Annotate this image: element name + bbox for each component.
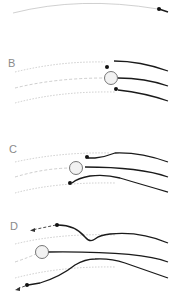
panel-a-diagram (0, 0, 174, 50)
trajectory-bottom (72, 175, 168, 192)
trajectory-bottom (118, 90, 168, 101)
arrowhead-top (30, 228, 35, 232)
panel-b-diagram (0, 55, 174, 135)
guide-line-middle (15, 253, 38, 262)
guide-line-bottom (15, 92, 115, 103)
panel-a (0, 0, 174, 50)
trajectory-middle (118, 78, 168, 86)
trajectory-bottom (28, 259, 168, 285)
panel-c-diagram (0, 140, 174, 210)
arrowhead-bottom (15, 287, 20, 291)
trajectory-middle (48, 252, 168, 262)
guide-arc (13, 3, 158, 13)
panel-d: D (0, 215, 174, 304)
guide-line-middle (15, 168, 72, 177)
particle-dot-bottom (68, 181, 72, 185)
particle-dot (157, 7, 161, 11)
guide-line-top (15, 62, 105, 72)
exit-arrow-top (32, 225, 56, 230)
particle-dot-top (85, 155, 89, 159)
panel-c: C (0, 140, 174, 210)
trajectory-top (58, 225, 168, 243)
guide-line-bottom (15, 183, 115, 193)
particle-dot-bottom (114, 87, 118, 91)
particle-dot-bottom (25, 283, 29, 287)
guide-line-middle (15, 78, 105, 88)
panel-b: B (0, 55, 174, 135)
particle-dot-top (55, 223, 59, 227)
panel-d-diagram (0, 215, 174, 304)
trajectory-top (114, 61, 168, 71)
sphere (70, 162, 83, 175)
particle-dot-top (105, 65, 109, 69)
sphere (36, 246, 49, 259)
sphere (105, 72, 118, 85)
trajectory-top (88, 153, 168, 162)
